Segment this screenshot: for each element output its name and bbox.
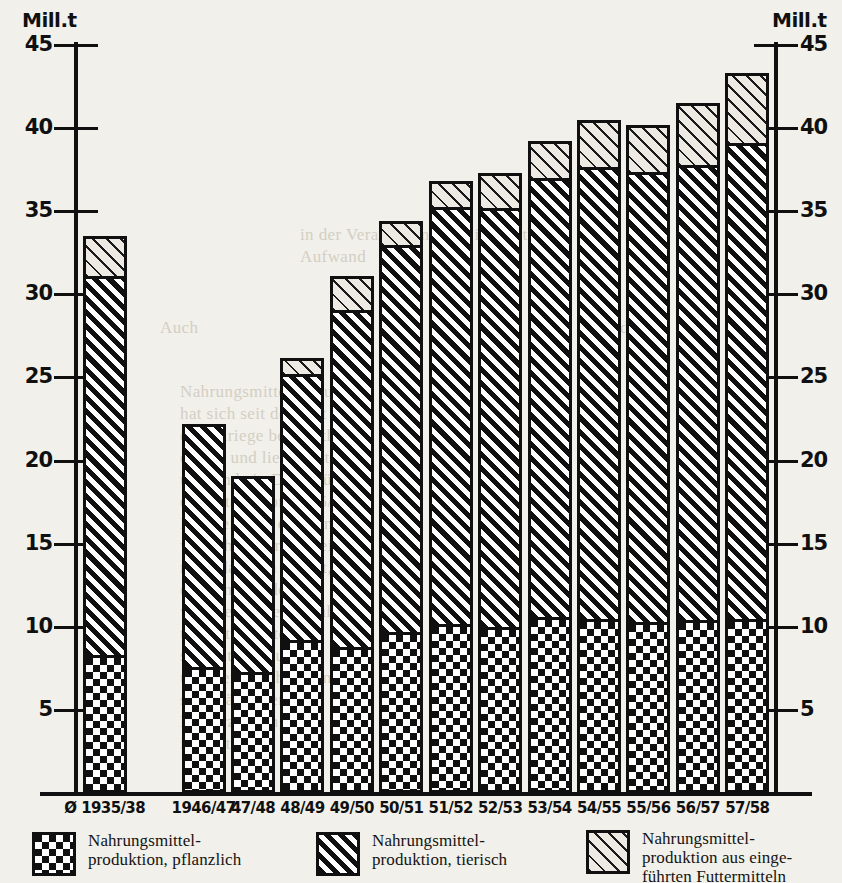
- x-axis-label: 47/48: [231, 799, 275, 817]
- bar-194647: [182, 424, 226, 793]
- segment-futtermittel: [283, 358, 321, 378]
- segment-pflanzlich: [432, 627, 470, 793]
- bar-193538: [83, 236, 127, 793]
- y-tick-label-left: 10: [0, 616, 52, 637]
- segment-pflanzlich: [185, 670, 223, 793]
- x-axis-label: Ø 1935/38: [64, 799, 145, 817]
- x-axis-label: 48/49: [280, 799, 324, 817]
- segment-pflanzlich: [629, 625, 667, 793]
- y-tick-label-right: 25: [800, 366, 842, 387]
- segment-tierisch: [283, 377, 321, 643]
- y-tick-label-left: 5: [0, 699, 52, 720]
- segment-futtermittel: [432, 181, 470, 209]
- y-axis-unit-right: Mill.t: [772, 8, 827, 32]
- segment-pflanzlich: [234, 675, 272, 793]
- x-axis-label: 56/57: [676, 799, 720, 817]
- bar-chart: Mill.t Mill.t 45454040353530302525202015…: [0, 0, 842, 883]
- x-axis-label: 54/55: [577, 799, 621, 817]
- segment-pflanzlich: [382, 635, 420, 793]
- segment-pflanzlich: [481, 630, 519, 793]
- y-tick-label-right: 10: [800, 616, 842, 637]
- segment-futtermittel: [333, 276, 371, 313]
- plot-area: [76, 45, 776, 793]
- bar-4748: [231, 476, 275, 793]
- segment-tierisch: [234, 476, 272, 675]
- y-tick-label-right: 5: [800, 699, 842, 720]
- x-axis-label: 51/52: [429, 799, 473, 817]
- segment-tierisch: [580, 170, 618, 622]
- y-tick-label-left: 35: [0, 200, 52, 221]
- bar-5051: [379, 221, 423, 793]
- segment-futtermittel: [86, 236, 124, 279]
- bar-5758: [725, 73, 769, 793]
- y-tick-label-right: 40: [800, 117, 842, 138]
- segment-pflanzlich: [580, 622, 618, 793]
- segment-pflanzlich: [679, 623, 717, 793]
- segment-tierisch: [382, 248, 420, 635]
- segment-futtermittel: [382, 221, 420, 248]
- segment-pflanzlich: [333, 650, 371, 793]
- segment-tierisch: [728, 146, 766, 621]
- segment-futtermittel: [481, 173, 519, 211]
- bar-4950: [330, 276, 374, 793]
- segment-tierisch: [481, 211, 519, 630]
- segment-futtermittel: [531, 141, 569, 181]
- segment-futtermittel: [580, 120, 618, 170]
- x-axis-label: 49/50: [330, 799, 374, 817]
- bar-5152: [429, 181, 473, 793]
- bar-4849: [280, 358, 324, 794]
- y-axis-unit-left: Mill.t: [22, 8, 77, 32]
- segment-pflanzlich: [86, 658, 124, 793]
- x-axis-label: 52/53: [478, 799, 522, 817]
- segment-futtermittel: [629, 125, 667, 175]
- y-tick-label-left: 25: [0, 366, 52, 387]
- y-tick-label-right: 15: [800, 533, 842, 554]
- segment-futtermittel: [728, 73, 766, 146]
- segment-pflanzlich: [283, 643, 321, 793]
- bar-5657: [676, 103, 720, 793]
- y-tick-label-right: 30: [800, 283, 842, 304]
- segment-tierisch: [432, 210, 470, 627]
- segment-pflanzlich: [728, 622, 766, 793]
- segment-tierisch: [531, 181, 569, 620]
- x-axis-label: 1946/47: [172, 799, 236, 817]
- segment-futtermittel: [679, 103, 717, 168]
- x-axis-label: 50/51: [379, 799, 423, 817]
- segment-tierisch: [86, 279, 124, 658]
- x-axis-label: 57/58: [725, 799, 769, 817]
- bar-5556: [626, 125, 670, 793]
- bar-5455: [577, 120, 621, 793]
- x-axis-label: 55/56: [626, 799, 670, 817]
- y-tick-label-right: 45: [800, 34, 842, 55]
- y-tick-label-right: 20: [800, 450, 842, 471]
- y-tick-label-left: 30: [0, 283, 52, 304]
- segment-tierisch: [333, 313, 371, 650]
- bar-5354: [528, 141, 572, 793]
- segment-tierisch: [629, 175, 667, 625]
- bar-5253: [478, 173, 522, 793]
- y-tick-label-left: 15: [0, 533, 52, 554]
- x-axis-label: 53/54: [527, 799, 571, 817]
- y-tick-label-left: 45: [0, 34, 52, 55]
- segment-tierisch: [679, 168, 717, 623]
- y-tick-label-right: 35: [800, 200, 842, 221]
- segment-tierisch: [185, 424, 223, 670]
- segment-pflanzlich: [531, 620, 569, 793]
- y-tick-label-left: 20: [0, 450, 52, 471]
- y-tick-label-left: 40: [0, 117, 52, 138]
